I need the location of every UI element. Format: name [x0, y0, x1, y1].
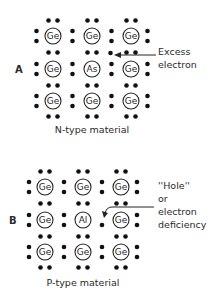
electron-dot	[133, 114, 138, 119]
electron-dot	[85, 265, 90, 270]
electron-dot	[109, 94, 114, 99]
electron-dot	[27, 223, 32, 228]
semiconductor-diagram: GeGeGeGeAsGeGeGeGeAN-type materialExcess…	[0, 0, 214, 298]
electron-dot	[135, 190, 140, 195]
atom-symbol: Ge	[125, 31, 138, 41]
atom-symbol: As	[87, 64, 98, 74]
electron-dot	[70, 94, 75, 99]
electron-dot	[55, 114, 60, 119]
electron-dot	[85, 114, 90, 119]
electron-dot	[123, 169, 128, 174]
electron-dot	[109, 104, 114, 109]
electron-dot	[114, 201, 119, 206]
electron-dot	[135, 213, 140, 218]
electron-dot	[94, 114, 99, 119]
electron-dot	[133, 50, 138, 55]
electron-dot	[38, 265, 43, 270]
electron-dot	[76, 169, 81, 174]
panel-caption: P-type material	[47, 277, 120, 288]
electron-dot	[55, 18, 60, 23]
electron-dot	[70, 39, 75, 44]
electron-dot	[135, 180, 140, 185]
atom-symbol: Ge	[115, 215, 128, 225]
annotation-text: ''Hole''	[158, 180, 190, 191]
electron-dot	[46, 83, 51, 88]
electron-dot	[46, 114, 51, 119]
electron-dot	[85, 18, 90, 23]
electron-dot	[46, 50, 51, 55]
electron-dot	[114, 234, 119, 239]
electron-dot	[85, 50, 90, 55]
electron-dot	[114, 169, 119, 174]
electron-dot	[70, 62, 75, 67]
annotation-text: or	[158, 193, 168, 204]
electron-dot	[94, 18, 99, 23]
electron-dot	[123, 234, 128, 239]
atom-symbol: Ge	[86, 31, 99, 41]
annotation-text: Excess	[158, 46, 190, 57]
atom-symbol: Ge	[47, 96, 60, 106]
atom-symbol: Ge	[125, 64, 138, 74]
electron-dot	[62, 213, 67, 218]
annotation-text: electron	[158, 59, 197, 70]
panel-label: B	[9, 215, 17, 226]
electron-dot	[27, 180, 32, 185]
electron-dot	[62, 180, 67, 185]
electron-dot	[85, 234, 90, 239]
electron-dot	[34, 39, 39, 44]
electron-dot	[76, 234, 81, 239]
electron-dot	[123, 265, 128, 270]
electron-dot	[133, 18, 138, 23]
electron-dot	[145, 39, 150, 44]
electron-dot	[46, 18, 51, 23]
electron-dot	[124, 50, 129, 55]
electron-dot	[109, 62, 114, 67]
electron-dot	[94, 83, 99, 88]
electron-dot	[109, 72, 114, 77]
atom-symbol: Ge	[115, 182, 128, 192]
electron-dot	[145, 62, 150, 67]
electron-dot	[62, 255, 67, 260]
electron-dot	[34, 72, 39, 77]
electron-dot	[47, 201, 52, 206]
electron-dot	[47, 234, 52, 239]
electron-dot	[34, 94, 39, 99]
electron-dot	[145, 72, 150, 77]
electron-dot	[27, 190, 32, 195]
atom-symbol: Ge	[86, 96, 99, 106]
electron-dot	[145, 94, 150, 99]
electron-dot	[109, 29, 114, 34]
electron-dot	[85, 201, 90, 206]
electron-dot	[145, 29, 150, 34]
electron-dot	[62, 223, 67, 228]
electron-dot	[100, 180, 105, 185]
electron-dot	[27, 255, 32, 260]
electron-dot	[70, 72, 75, 77]
electron-dot	[38, 234, 43, 239]
atom-symbol: Ge	[77, 182, 90, 192]
arrowhead-icon	[102, 211, 108, 218]
electron-dot	[34, 104, 39, 109]
electron-dot	[38, 169, 43, 174]
electron-dot	[27, 213, 32, 218]
electron-dot	[135, 255, 140, 260]
panel-label: A	[15, 64, 23, 75]
electron-dot	[100, 245, 105, 250]
atom-symbol: Ge	[47, 64, 60, 74]
panel-b-p-type: GeGeGeGeAlGeGeGeGeBP-type material''Hole…	[9, 169, 207, 288]
electron-dot	[109, 39, 114, 44]
panel-a-n-type: GeGeGeGeAsGeGeGeGeAN-type materialExcess…	[15, 18, 197, 135]
annotation-text: electron	[158, 206, 197, 217]
atom-symbol: Ge	[39, 247, 52, 257]
electron-dot	[145, 104, 150, 109]
electron-dot	[34, 62, 39, 67]
atom-symbol: Ge	[125, 96, 138, 106]
electron-dot	[135, 245, 140, 250]
electron-dot	[135, 223, 140, 228]
electron-dot	[100, 223, 105, 228]
electron-dot	[100, 190, 105, 195]
electron-dot	[114, 265, 119, 270]
electron-dot	[38, 201, 43, 206]
electron-dot	[47, 265, 52, 270]
electron-dot	[47, 169, 52, 174]
